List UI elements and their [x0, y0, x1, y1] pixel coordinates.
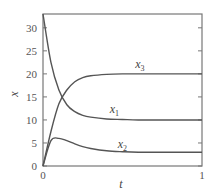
x-axis-label: t [119, 177, 123, 191]
y-tick-label: 30 [26, 22, 38, 34]
line-chart: 051015202530 01 x1x2x3 x t [0, 0, 212, 196]
y-axis-ticks: 051015202530 [26, 22, 202, 172]
series-label-x3: x3 [134, 57, 144, 73]
y-tick-label: 10 [26, 114, 38, 126]
y-axis-label: x [7, 91, 21, 98]
y-tick-label: 25 [26, 45, 38, 57]
series-label-x1: x1 [109, 102, 119, 118]
series-label-x2: x2 [117, 137, 127, 153]
x-tick-label: 1 [199, 169, 205, 181]
x-tick-label: 0 [40, 169, 46, 181]
y-tick-label: 15 [26, 91, 38, 103]
y-tick-label: 5 [32, 137, 38, 149]
series-labels: x1x2x3 [109, 57, 145, 153]
y-tick-label: 20 [26, 68, 38, 80]
series-line-x1 [43, 14, 202, 120]
y-tick-label: 0 [32, 160, 38, 172]
